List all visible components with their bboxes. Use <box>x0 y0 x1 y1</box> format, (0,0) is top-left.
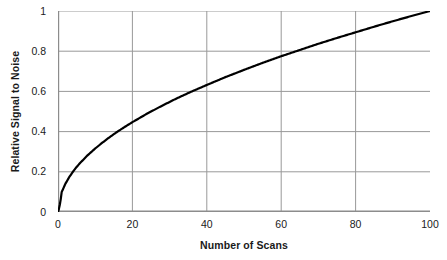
plot-svg <box>58 11 430 212</box>
y-axis-tick-labels: 00.20.40.60.81 <box>0 11 46 212</box>
y-tick-label: 0 <box>6 207 46 218</box>
y-tick-label: 0.6 <box>6 86 46 97</box>
y-tick-label: 1 <box>6 6 46 17</box>
x-axis-title: Number of Scans <box>58 239 430 251</box>
y-tick-label: 0.4 <box>6 126 46 137</box>
y-tick-label: 0.8 <box>6 46 46 57</box>
x-axis-tick-labels: 020406080100 <box>58 219 430 233</box>
x-tick-label: 80 <box>331 219 381 230</box>
x-tick-label: 0 <box>33 219 83 230</box>
plot-area <box>58 11 430 212</box>
x-tick-label: 100 <box>405 219 447 230</box>
y-tick-label: 0.2 <box>6 166 46 177</box>
x-tick-label: 40 <box>182 219 232 230</box>
x-tick-label: 60 <box>256 219 306 230</box>
horizontal-gridlines <box>58 11 430 172</box>
vertical-gridlines <box>132 11 355 212</box>
x-tick-label: 20 <box>107 219 157 230</box>
data-series-line <box>58 11 430 212</box>
chart-figure: Relative Signal to Noise 00.20.40.60.81 … <box>0 0 447 260</box>
